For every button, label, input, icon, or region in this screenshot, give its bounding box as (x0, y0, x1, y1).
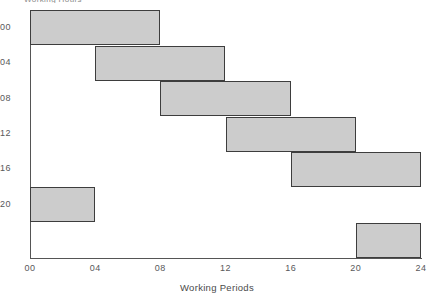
y-tick-label: 12 (0, 128, 24, 138)
x-tick-label: 24 (415, 263, 426, 273)
y-tick-label: 04 (0, 57, 24, 67)
gantt-chart: Working Hours 000408121620 0004081216202… (0, 0, 434, 297)
x-tick-label: 16 (285, 263, 296, 273)
x-axis-line (30, 258, 422, 259)
x-tick-label: 08 (155, 263, 166, 273)
bar (356, 223, 421, 258)
x-axis-title: Working Periods (0, 282, 434, 293)
y-tick-label: 00 (0, 22, 24, 32)
clipped-top-label: Working Hours (24, 0, 82, 3)
x-tick-label: 00 (24, 263, 35, 273)
bar (95, 46, 225, 81)
y-tick-label: 08 (0, 93, 24, 103)
y-tick-label: 20 (0, 199, 24, 209)
bar (226, 117, 356, 152)
x-tick-label: 20 (350, 263, 361, 273)
bar (291, 152, 421, 187)
bar (30, 10, 160, 45)
bar (160, 81, 290, 116)
x-tick-label: 04 (90, 263, 101, 273)
x-tick-label: 12 (220, 263, 231, 273)
bar (30, 187, 95, 222)
plot-area (30, 10, 421, 258)
y-tick-label: 16 (0, 163, 24, 173)
y-axis-ticks: 000408121620 (0, 0, 24, 297)
